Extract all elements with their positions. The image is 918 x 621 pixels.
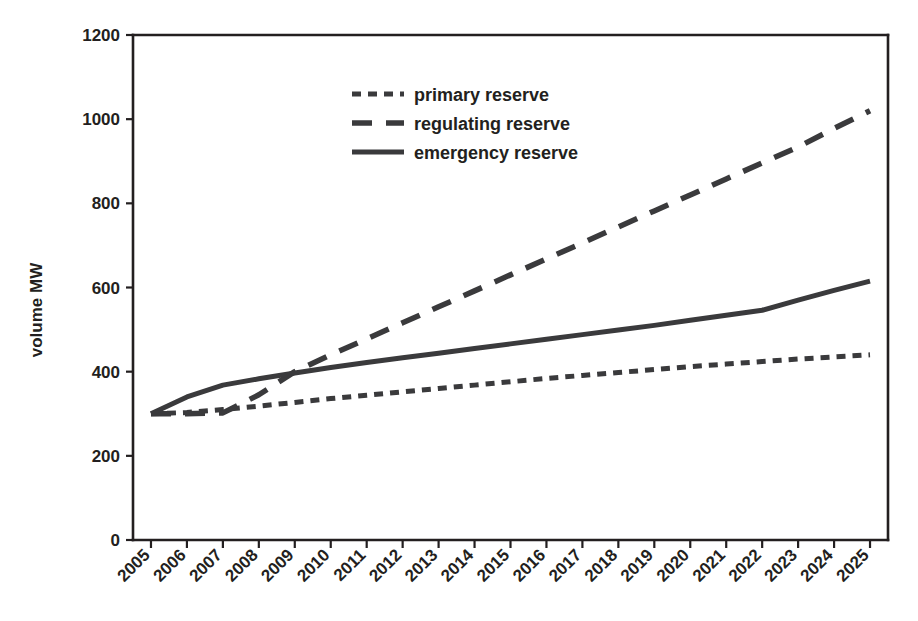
x-tick-label: 2010 [293,545,333,585]
x-tick-label: 2008 [221,545,261,585]
x-tick-label: 2025 [833,545,873,585]
x-axis-tick-labels: 2005200620072008200920102011201220132014… [114,545,873,586]
x-tick-label: 2015 [473,545,513,585]
x-axis-tick-marks [151,540,870,548]
y-tick-label: 0 [111,531,120,550]
x-tick-label: 2007 [186,545,226,585]
x-tick-label: 2024 [797,545,838,586]
x-tick-label: 2018 [581,545,621,585]
y-axis-title: volume MW [27,262,46,357]
y-tick-label: 1200 [82,26,120,45]
chart-legend: primary reserveregulating reserveemergen… [352,85,578,163]
legend-label-emergency-reserve: emergency reserve [414,143,578,163]
x-tick-label: 2022 [725,545,765,585]
legend-label-primary-reserve: primary reserve [414,85,549,105]
x-tick-label: 2019 [617,545,657,585]
chart-container: 120010008006004002000 200520062007200820… [0,0,918,621]
y-axis-tick-labels: 120010008006004002000 [82,26,120,550]
series-line-primary-reserve [151,355,870,414]
x-tick-label: 2021 [689,545,729,585]
y-tick-label: 800 [92,194,120,213]
x-tick-label: 2023 [761,545,801,585]
x-tick-label: 2016 [509,545,549,585]
legend-label-regulating-reserve: regulating reserve [414,114,570,134]
y-tick-label: 200 [92,447,120,466]
x-tick-label: 2009 [257,545,297,585]
y-tick-label: 400 [92,363,120,382]
x-tick-label: 2020 [653,545,693,585]
line-chart: 120010008006004002000 200520062007200820… [0,0,918,621]
x-tick-label: 2011 [330,545,370,585]
x-tick-label: 2017 [545,545,585,585]
y-tick-label: 600 [92,279,120,298]
x-tick-label: 2012 [365,545,405,585]
y-tick-label: 1000 [82,110,120,129]
x-tick-label: 2005 [114,545,154,585]
x-tick-label: 2013 [401,545,441,585]
x-tick-label: 2006 [150,545,190,585]
x-tick-label: 2014 [437,545,478,586]
